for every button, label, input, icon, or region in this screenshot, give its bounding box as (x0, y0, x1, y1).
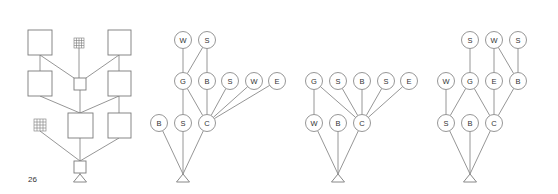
panel-4: SWSWGEBSBC (438, 32, 527, 132)
node-label: W (179, 36, 187, 45)
root-edge (183, 131, 203, 174)
node-c: C (354, 115, 371, 132)
box-node (68, 113, 93, 138)
tree-edge (214, 85, 269, 118)
root-triangle-icon (74, 174, 87, 182)
box-node (28, 30, 52, 55)
tree-edge (450, 88, 466, 115)
node-b: B (151, 115, 168, 132)
node-label: S (443, 119, 448, 128)
box-node (108, 30, 131, 55)
node-label: E (491, 77, 496, 86)
node-g: G (306, 73, 323, 90)
node-label: C (204, 119, 210, 128)
node-s: S (510, 32, 527, 49)
nodes-layer: WSGBSWEBSCGSBSEWBCSWSWGEBSBC (28, 30, 527, 182)
node-b: B (199, 73, 216, 90)
node-label: B (204, 77, 209, 86)
tree-edge (366, 88, 382, 115)
node-label: S (335, 77, 340, 86)
node-label: B (467, 119, 472, 128)
node-label: S (515, 36, 520, 45)
box-node (74, 78, 86, 90)
figure-number: 26 (28, 175, 37, 184)
root-edge (450, 131, 470, 174)
node-e: E (269, 73, 286, 90)
box-edge (80, 96, 119, 113)
node-label: B (156, 119, 161, 128)
node-s: S (378, 73, 395, 90)
node-w: W (486, 32, 503, 49)
edges-layer (40, 47, 518, 174)
box-edge (40, 96, 80, 113)
node-label: E (406, 77, 411, 86)
tree-edge (342, 88, 358, 115)
node-label: B (335, 119, 340, 128)
node-w: W (306, 115, 323, 132)
node-w: W (246, 73, 263, 90)
box-node (28, 71, 52, 96)
tree-edge (211, 88, 226, 115)
root-edge (338, 131, 358, 174)
node-e: E (401, 73, 418, 90)
root-edge (470, 131, 490, 174)
node-label: G (467, 77, 473, 86)
grid-box-icon (74, 38, 84, 48)
node-label: S (227, 77, 232, 86)
node-label: G (180, 77, 186, 86)
node-label: W (490, 36, 498, 45)
node-s: S (330, 73, 347, 90)
node-s: S (199, 32, 216, 49)
node-label: G (311, 77, 317, 86)
node-label: C (359, 119, 365, 128)
node-label: W (310, 119, 318, 128)
root-edge (163, 131, 183, 174)
diagram-canvas: WSGBSWEBSCGSBSEWBCSWSWGEBSBC 26 (0, 0, 558, 194)
root-triangle-icon (177, 174, 190, 182)
node-label: B (359, 77, 364, 86)
node-c: C (486, 115, 503, 132)
node-e: E (486, 73, 503, 90)
node-g: G (175, 73, 192, 90)
box-node (108, 71, 131, 96)
root-triangle-icon (332, 174, 345, 182)
grid-box-icon (34, 119, 46, 131)
panel-3: GSBSEWBC (306, 73, 418, 132)
node-label: S (204, 36, 209, 45)
node-b: B (510, 73, 527, 90)
tree-edge (498, 47, 513, 73)
panel-1-boxes (28, 30, 131, 173)
node-b: B (354, 73, 371, 90)
node-s: S (438, 115, 455, 132)
tree-edge (187, 47, 202, 73)
node-b: B (330, 115, 347, 132)
box-node (74, 161, 86, 173)
node-label: B (515, 77, 520, 86)
node-s: S (462, 32, 479, 49)
node-s: S (222, 73, 239, 90)
node-w: W (438, 73, 455, 90)
box-node (108, 113, 131, 138)
node-b: B (462, 115, 479, 132)
root-triangle-icon (464, 174, 477, 182)
node-label: S (383, 77, 388, 86)
node-c: C (199, 115, 216, 132)
tree-edge (474, 88, 490, 115)
node-label: S (467, 36, 472, 45)
node-label: S (180, 119, 185, 128)
tree-edge (498, 88, 514, 115)
root-edge (318, 131, 338, 174)
node-w: W (175, 32, 192, 49)
box-edge (80, 138, 119, 161)
node-label: W (250, 77, 258, 86)
node-label: W (442, 77, 450, 86)
node-s: S (175, 115, 192, 132)
tree-edge (187, 88, 203, 115)
node-g: G (462, 73, 479, 90)
node-label: C (491, 119, 497, 128)
node-label: E (274, 77, 279, 86)
